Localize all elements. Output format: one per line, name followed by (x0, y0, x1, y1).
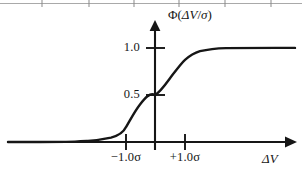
scan-artifact-rule (0, 0, 302, 7)
x-axis-title-delta: Δ (262, 151, 270, 166)
x-axis-title-v: V (270, 151, 278, 166)
plot-svg (0, 0, 302, 176)
x-axis-title: ΔV (262, 152, 278, 165)
y-axis-title-phi: Φ (168, 7, 178, 22)
y-axis-title: Φ(ΔV/σ) (168, 8, 212, 21)
x-tick-label-negative-one-sigma: −1.0σ (96, 151, 156, 164)
cdf-curve (8, 48, 295, 142)
x-tick-label-positive-one-sigma: +1.0σ (155, 151, 215, 164)
figure-canvas: 1.0 0.5 −1.0σ +1.0σ Φ(ΔV/σ) ΔV (0, 0, 302, 176)
y-axis-title-delta: Δ (182, 7, 190, 22)
y-axis-title-close-paren: ) (208, 7, 212, 22)
y-tick-label-1.0: 1.0 (88, 41, 140, 54)
y-axis (150, 20, 161, 150)
y-tick-label-0.5: 0.5 (88, 88, 140, 101)
